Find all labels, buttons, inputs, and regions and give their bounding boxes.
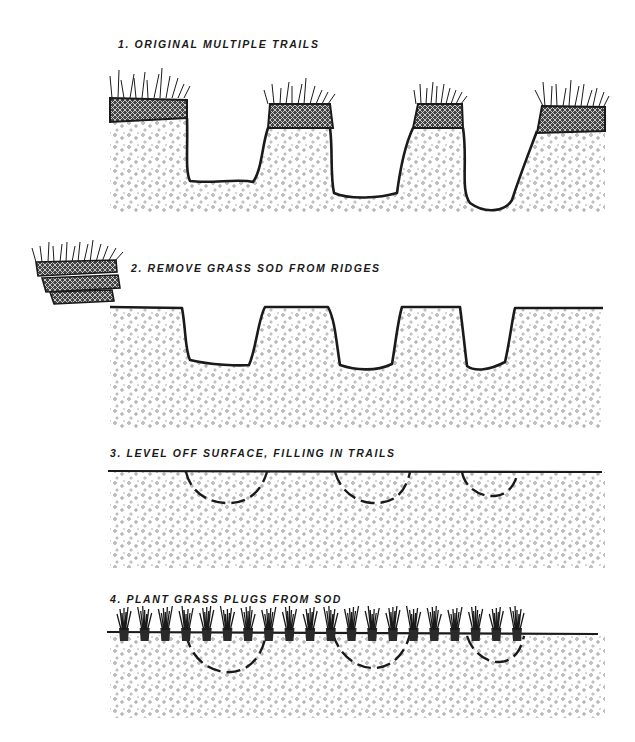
panel-3-ground-line bbox=[108, 471, 602, 472]
panel-1-original-trails bbox=[110, 68, 609, 212]
panel-3-leveled-surface bbox=[108, 471, 605, 568]
panel-2-removed-sod bbox=[32, 240, 603, 428]
stacked-sod-pile bbox=[32, 240, 123, 304]
panel-4-grass-plugs bbox=[107, 606, 605, 718]
panel-4-soil bbox=[110, 635, 605, 718]
panel-3-soil bbox=[110, 472, 605, 568]
sod-block-ridge-2 bbox=[264, 78, 335, 128]
sod-block-ridge-3 bbox=[413, 82, 467, 128]
sod-block-ridge-4 bbox=[535, 80, 609, 133]
trail-restoration-diagram bbox=[0, 0, 635, 742]
sod-block-ridge-1 bbox=[110, 68, 190, 122]
